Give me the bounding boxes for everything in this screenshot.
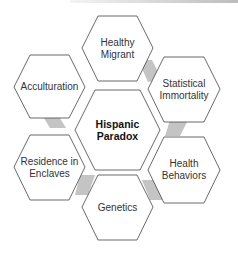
label-line1: Acculturation	[21, 81, 79, 93]
node-hispanic-paradox: HispanicParadox	[75, 90, 160, 170]
node-healthy-migrant: HealthyMigrant	[82, 16, 153, 81]
label-line1: Statistical	[160, 78, 209, 90]
center-line1: Hispanic	[96, 118, 140, 130]
center-line2: Paradox	[96, 130, 140, 142]
label-line2: Enclaves	[21, 168, 79, 180]
label-line2: Migrant	[101, 49, 135, 61]
label-line2: Behaviors	[162, 170, 206, 182]
label-line1: Healthy	[101, 37, 135, 49]
label-line2: Immortality	[160, 90, 209, 102]
label-line1: Residence in	[21, 156, 79, 168]
label-line1: Health	[162, 158, 206, 170]
label-line1: Genetics	[98, 202, 137, 214]
node-genetics: Genetics	[82, 175, 153, 240]
